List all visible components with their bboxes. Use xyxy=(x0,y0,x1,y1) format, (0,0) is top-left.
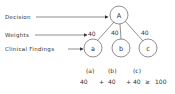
weight-b: 40 xyxy=(111,29,119,36)
decision-tree-diagram: Decision Weights Clinical Findings A a b… xyxy=(0,0,175,94)
formula-term-2: 40 xyxy=(108,78,116,85)
formula-header-a: (a) xyxy=(86,67,94,74)
node-c: c xyxy=(139,39,157,57)
edge-A-b xyxy=(120,24,121,39)
decision-label: Decision xyxy=(5,14,31,20)
weights-label: Weights xyxy=(5,32,29,39)
svg-text:b: b xyxy=(119,45,123,53)
node-a: a xyxy=(84,39,102,57)
formula-geq: ≥ xyxy=(145,78,150,85)
weight-c: 40 xyxy=(141,29,149,36)
formula-term-1: 40 xyxy=(80,78,88,85)
node-b: b xyxy=(112,39,130,57)
formula-term-3: 40 xyxy=(133,78,141,85)
node-A: A xyxy=(110,6,128,24)
clinical-findings-label: Clinical Findings xyxy=(5,46,54,53)
formula-plus-1: + xyxy=(99,78,104,85)
weight-a: 40 xyxy=(88,30,96,37)
svg-text:c: c xyxy=(146,45,150,53)
formula-threshold: 100 xyxy=(155,78,167,85)
formula-plus-2: + xyxy=(126,78,131,85)
svg-text:A: A xyxy=(117,12,122,20)
formula-header-b: (b) xyxy=(108,67,117,74)
svg-text:a: a xyxy=(91,45,95,53)
formula-header-c: (c) xyxy=(133,67,141,74)
